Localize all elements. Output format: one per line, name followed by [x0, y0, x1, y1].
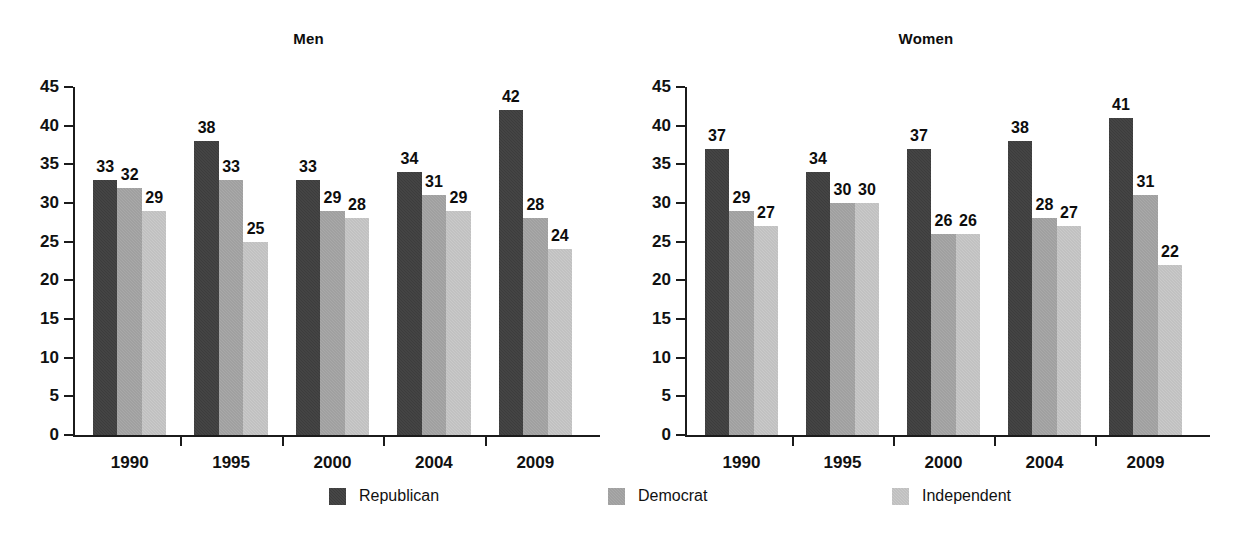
- bar-men-democrat-1990: [117, 188, 142, 435]
- bar-fill: [729, 211, 754, 435]
- bar-fill: [93, 180, 118, 435]
- y-axis-label-men-30: 30: [40, 193, 59, 213]
- bar-fill: [523, 218, 548, 435]
- bar-fill: [1133, 195, 1158, 435]
- y-axis-tick-men-5: [64, 395, 73, 397]
- y-axis-line-women: [685, 87, 687, 435]
- bar-women-republican-2000: [907, 149, 932, 435]
- bar-women-republican-2004: [1008, 141, 1033, 435]
- bar-value-label-women-independent-1995: 30: [858, 181, 876, 199]
- bar-women-democrat-2000: [931, 234, 956, 435]
- bar-value-label-men-democrat-1995: 33: [222, 158, 240, 176]
- y-axis-label-men-20: 20: [40, 270, 59, 290]
- bar-fill: [142, 211, 167, 435]
- bar-women-independent-1990: [754, 226, 779, 435]
- bar-value-label-women-republican-1990: 37: [708, 127, 726, 145]
- bar-fill: [1008, 141, 1033, 435]
- y-axis-tick-men-15: [64, 318, 73, 320]
- y-axis-tick-women-30: [676, 202, 685, 204]
- y-axis-tick-men-20: [64, 279, 73, 281]
- bar-value-label-men-independent-1995: 25: [247, 220, 265, 238]
- x-axis-label-women-2000: 2000: [925, 453, 963, 473]
- bar-women-independent-2009: [1158, 265, 1183, 435]
- bar-value-label-men-republican-2009: 42: [502, 88, 520, 106]
- x-axis-tick-women-3: [1095, 435, 1097, 446]
- legend-item-republican: Republican: [329, 487, 439, 505]
- bar-fill: [548, 249, 573, 435]
- bar-fill: [243, 242, 268, 435]
- y-axis-tick-women-0: [676, 434, 685, 436]
- legend-swatch-independent: [892, 488, 909, 505]
- y-axis-label-men-45: 45: [40, 77, 59, 97]
- y-axis-label-women-30: 30: [652, 193, 671, 213]
- bar-men-democrat-2009: [523, 218, 548, 435]
- bar-value-label-men-independent-2004: 29: [449, 189, 467, 207]
- bar-women-independent-2004: [1057, 226, 1082, 435]
- bar-value-label-men-independent-2000: 28: [348, 196, 366, 214]
- y-axis-tick-women-15: [676, 318, 685, 320]
- bar-value-label-women-democrat-2000: 26: [935, 212, 953, 230]
- y-axis-label-women-5: 5: [662, 386, 671, 406]
- bar-value-label-women-independent-2004: 27: [1060, 204, 1078, 222]
- chart-panel-women: Women 0510152025303540453729271990343030…: [617, 0, 1235, 480]
- x-axis-tick-men-3: [485, 435, 487, 446]
- y-axis-label-men-25: 25: [40, 232, 59, 252]
- x-axis-label-men-2004: 2004: [415, 453, 453, 473]
- y-axis-label-men-10: 10: [40, 348, 59, 368]
- y-axis-label-men-35: 35: [40, 154, 59, 174]
- bar-value-label-men-democrat-2009: 28: [526, 196, 544, 214]
- y-axis-tick-men-40: [64, 125, 73, 127]
- bar-fill: [397, 172, 422, 435]
- bar-value-label-women-independent-2009: 22: [1161, 243, 1179, 261]
- y-axis-label-women-35: 35: [652, 154, 671, 174]
- bar-value-label-men-democrat-1990: 32: [121, 166, 139, 184]
- bar-women-republican-1990: [705, 149, 730, 435]
- bar-women-republican-1995: [806, 172, 831, 435]
- y-axis-label-women-0: 0: [662, 425, 671, 445]
- y-axis-tick-men-0: [64, 434, 73, 436]
- bar-value-label-men-democrat-2000: 29: [324, 189, 342, 207]
- bar-value-label-women-republican-2004: 38: [1011, 119, 1029, 137]
- plot-area-men: 0510152025303540453332291990383325199533…: [73, 87, 600, 435]
- x-axis-label-men-2000: 2000: [314, 453, 352, 473]
- legend-swatch-democrat: [608, 488, 625, 505]
- y-axis-label-women-45: 45: [652, 77, 671, 97]
- x-axis-tick-women-2: [994, 435, 996, 446]
- x-axis-tick-men-2: [383, 435, 385, 446]
- x-axis-tick-men-0: [180, 435, 182, 446]
- bar-value-label-men-republican-1990: 33: [96, 158, 114, 176]
- x-axis-label-women-1990: 1990: [723, 453, 761, 473]
- y-axis-label-men-5: 5: [50, 386, 59, 406]
- y-axis-label-men-15: 15: [40, 309, 59, 329]
- x-axis-tick-women-1: [893, 435, 895, 446]
- x-axis-label-men-1990: 1990: [111, 453, 149, 473]
- x-axis-label-men-1995: 1995: [212, 453, 250, 473]
- x-axis-line-women: [685, 435, 1210, 437]
- bar-value-label-men-democrat-2004: 31: [425, 173, 443, 191]
- bar-value-label-men-republican-2000: 33: [299, 158, 317, 176]
- y-axis-label-women-15: 15: [652, 309, 671, 329]
- bar-value-label-women-republican-1995: 34: [809, 150, 827, 168]
- bar-men-republican-2009: [499, 110, 524, 435]
- bar-value-label-women-independent-1990: 27: [757, 204, 775, 222]
- bar-women-democrat-1990: [729, 211, 754, 435]
- bar-men-independent-1995: [243, 242, 268, 435]
- bar-fill: [1057, 226, 1082, 435]
- bar-value-label-women-republican-2009: 41: [1112, 96, 1130, 114]
- bar-fill: [705, 149, 730, 435]
- y-axis-tick-men-25: [64, 241, 73, 243]
- y-axis-line-men: [73, 87, 75, 435]
- x-axis-label-men-2009: 2009: [516, 453, 554, 473]
- bar-fill: [499, 110, 524, 435]
- bar-fill: [806, 172, 831, 435]
- x-axis-label-women-1995: 1995: [824, 453, 862, 473]
- y-axis-tick-men-35: [64, 163, 73, 165]
- bar-value-label-women-republican-2000: 37: [910, 127, 928, 145]
- bar-men-republican-1995: [194, 141, 219, 435]
- chart-panel-men: Men 051015202530354045333229199038332519…: [0, 0, 617, 480]
- y-axis-label-men-0: 0: [50, 425, 59, 445]
- bar-fill: [194, 141, 219, 435]
- legend-label-republican: Republican: [359, 487, 439, 505]
- chart-legend: Republican Democrat Independent: [0, 487, 1235, 523]
- bar-value-label-women-independent-2000: 26: [959, 212, 977, 230]
